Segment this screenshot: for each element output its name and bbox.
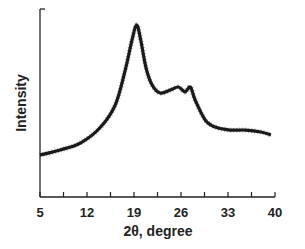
- x-tick-label: 33: [221, 205, 235, 220]
- axes: [40, 9, 275, 197]
- x-tick-label: 5: [36, 205, 43, 220]
- x-tick-label: 26: [174, 205, 188, 220]
- x-axis-title: 2θ, degree: [123, 223, 192, 239]
- data-series: [40, 25, 271, 155]
- x-tick-labels: 51219263340: [36, 205, 282, 220]
- x-ticks: [40, 192, 275, 197]
- xrd-chart: 51219263340 2θ, degree Intensity: [0, 0, 305, 249]
- series-line: [40, 25, 271, 155]
- x-tick-label: 12: [80, 205, 94, 220]
- x-tick-label: 40: [268, 205, 282, 220]
- x-tick-label: 19: [127, 205, 141, 220]
- y-axis-title: Intensity: [13, 74, 29, 132]
